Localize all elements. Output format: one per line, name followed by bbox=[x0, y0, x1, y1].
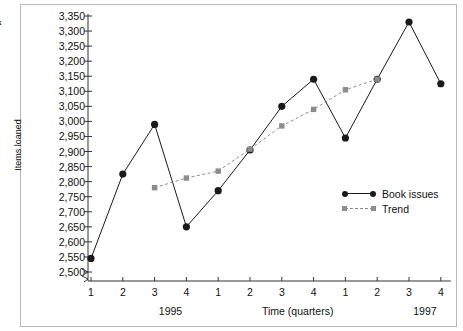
x-group-label: 1995 bbox=[159, 305, 182, 317]
legend-key-dashed-square bbox=[341, 203, 377, 214]
y-tick-label: 3,000 bbox=[59, 115, 85, 127]
x-tick-label: 1 bbox=[215, 286, 221, 298]
legend-label-trend: Trend bbox=[382, 203, 409, 215]
x-tick-label: 1 bbox=[88, 286, 94, 298]
y-tick-label: 2,850 bbox=[59, 161, 85, 173]
y-tick-label: 3,250 bbox=[59, 40, 85, 52]
y-tick-label: 2,650 bbox=[59, 221, 85, 233]
x-group-label: Time (quarters) bbox=[262, 305, 333, 317]
legend-item-trend: Trend bbox=[341, 201, 439, 216]
y-tick-label: 3,350 bbox=[59, 10, 85, 22]
y-tick-label: 3,200 bbox=[59, 55, 85, 67]
chart-screenshot: k | 3,3503,3003,2503,2003,1503,1003,0503… bbox=[0, 0, 463, 331]
y-tick-label: 3,050 bbox=[59, 100, 85, 112]
legend-item-book-issues: Book issues bbox=[341, 186, 439, 201]
x-tick-label: 4 bbox=[438, 286, 444, 298]
x-tick-label: 2 bbox=[247, 286, 253, 298]
chart-legend: Book issues Trend bbox=[341, 186, 439, 216]
y-tick-label: 3,100 bbox=[59, 85, 85, 97]
y-tick-label: 2,700 bbox=[59, 206, 85, 218]
legend-key-solid-circle bbox=[341, 188, 377, 199]
y-tick-label: 2,550 bbox=[59, 251, 85, 263]
y-tick-label: 3,150 bbox=[59, 70, 85, 82]
x-group-label: 1997 bbox=[413, 305, 436, 317]
y-tick-label: 2,950 bbox=[59, 130, 85, 142]
x-tick-label: 3 bbox=[152, 286, 158, 298]
x-tick-label: 2 bbox=[374, 286, 380, 298]
x-tick-label: 3 bbox=[279, 286, 285, 298]
legend-label-book-issues: Book issues bbox=[382, 188, 439, 200]
y-tick-label: 2,600 bbox=[59, 236, 85, 248]
x-tick-label: 2 bbox=[120, 286, 126, 298]
y-tick-label: 2,500 bbox=[59, 266, 85, 278]
x-tick-label: 3 bbox=[406, 286, 412, 298]
x-tick-label: 4 bbox=[183, 286, 189, 298]
y-tick-label: 2,750 bbox=[59, 191, 85, 203]
x-tick-label: 4 bbox=[311, 286, 317, 298]
y-tick-label: 2,800 bbox=[59, 176, 85, 188]
y-axis-title: Items loaned bbox=[13, 100, 23, 190]
y-tick-label: 2,900 bbox=[59, 146, 85, 158]
y-tick-label: 3,300 bbox=[59, 25, 85, 37]
figure-frame bbox=[20, 4, 457, 327]
x-tick-label: 1 bbox=[342, 286, 348, 298]
